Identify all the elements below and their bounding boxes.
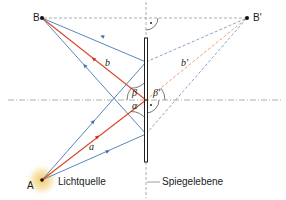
label-ray-b: b	[105, 57, 110, 68]
virtual-ray-b-prime	[146, 18, 247, 100]
arrow-icon	[100, 34, 105, 39]
red-ray	[42, 18, 146, 180]
label-light-source: Lichtquelle	[58, 176, 106, 187]
virtual-blue-ray-lower	[146, 18, 247, 134]
blue-arrowheads	[82, 34, 111, 154]
arrow-icon	[105, 149, 110, 154]
label-angle-alpha: α	[132, 100, 138, 111]
label-ray-b-prime: b'	[181, 57, 189, 68]
point-b	[40, 16, 44, 20]
right-angle-dot-top	[150, 22, 152, 24]
label-a: A	[27, 180, 34, 191]
label-mirror-plane: Spiegelebene	[162, 176, 224, 187]
label-angle-beta-prime: β'	[152, 87, 161, 98]
blue-ray-a-to-lower	[42, 134, 146, 180]
right-angle-dot-center	[150, 104, 152, 106]
angle-beta-prime-arc	[161, 88, 165, 100]
blue-rays	[42, 18, 146, 180]
point-b-prime	[245, 16, 249, 20]
virtual-rays	[146, 18, 247, 134]
right-angle-arc-top	[146, 18, 158, 30]
red-ray-a	[42, 100, 146, 180]
blue-ray-upper-to-b	[42, 18, 146, 62]
blue-ray-lower-to-b	[42, 18, 146, 134]
angle-alpha-beta-vertical	[127, 88, 131, 100]
virtual-blue-ray-upper	[146, 18, 247, 62]
label-b: B	[33, 12, 40, 23]
red-arrowheads	[91, 56, 101, 140]
reflection-diagram: B B' A Lichtquelle Spiegelebene b a b' β…	[0, 0, 286, 200]
label-b-prime: B'	[253, 12, 262, 23]
label-angle-beta: β	[131, 87, 137, 98]
point-a	[40, 178, 44, 182]
label-ray-a: a	[89, 141, 94, 152]
reflection-point	[145, 99, 147, 101]
angle-alpha-arc	[131, 112, 146, 120]
